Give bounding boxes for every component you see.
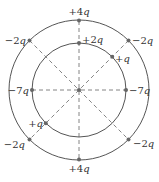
charge-diagram: +4q −2q −2q −2q −2q +4q +2q −7q −7q +q +…: [0, 0, 159, 182]
label-outer-upper-right: −2q: [132, 35, 153, 46]
label-outer-upper-left: −2q: [5, 35, 26, 46]
label-outer-lower-right: −2q: [133, 138, 154, 149]
center-point: [77, 88, 81, 92]
charge-dot-inner-top: [77, 41, 81, 45]
charge-dot-inner-lower-left: [44, 121, 48, 125]
label-inner-top: +2q: [82, 34, 103, 45]
charge-dot-inner-right: [124, 88, 128, 92]
label-outer-lower-left: −2q: [4, 139, 25, 150]
charge-dot-outer-upper-left: [28, 39, 32, 43]
charge-dot-outer-top: [77, 19, 81, 23]
label-inner-lower-left: +q: [28, 118, 43, 129]
label-inner-right: −7q: [129, 85, 150, 96]
charge-dot-inner-left: [30, 88, 34, 92]
label-outer-bottom: +4q: [68, 163, 89, 174]
label-outer-top: +4q: [68, 6, 89, 17]
label-inner-upper-right: +q: [115, 53, 130, 64]
charge-dot-outer-upper-right: [127, 39, 131, 43]
charge-dot-outer-lower-left: [28, 138, 32, 142]
label-inner-left: −7q: [8, 85, 29, 96]
charge-dot-outer-lower-right: [127, 138, 131, 142]
charge-dot-outer-bottom: [77, 158, 81, 162]
charge-dot-inner-upper-right: [110, 55, 114, 59]
